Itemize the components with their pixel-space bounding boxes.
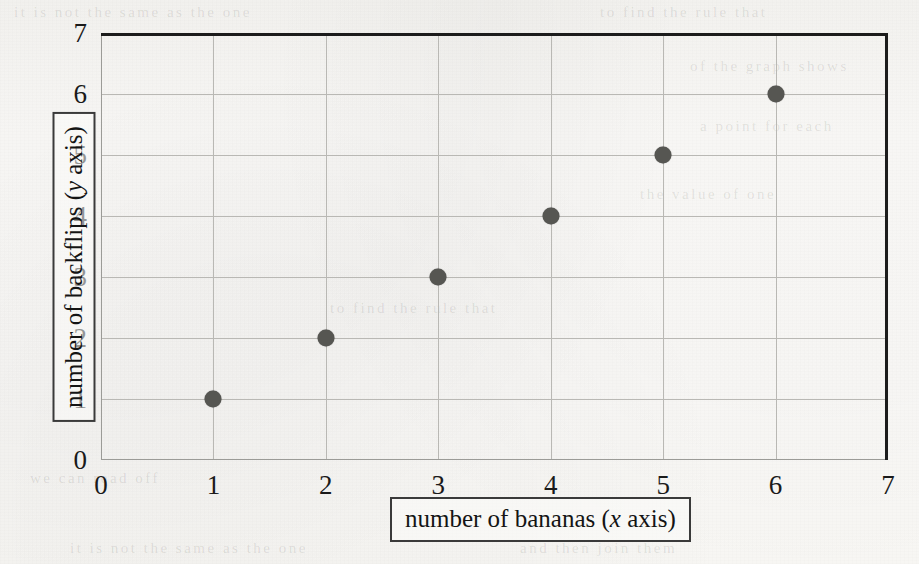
data-point bbox=[767, 86, 784, 103]
y-axis-title-variable: y bbox=[60, 181, 87, 192]
x-tick-label: 3 bbox=[432, 472, 446, 499]
y-axis-title-prefix: number of backflips ( bbox=[60, 192, 87, 408]
x-tick-label: 0 bbox=[94, 472, 108, 499]
y-axis-title: number of backflips (y axis) bbox=[53, 112, 96, 422]
x-axis-title-variable: x bbox=[610, 505, 621, 532]
y-axis-title-wrapper: number of backflips (y axis) bbox=[54, 112, 94, 422]
x-tick-label: 1 bbox=[207, 472, 221, 499]
ghost-text-line: it is not the same as the one bbox=[70, 541, 308, 557]
ghost-text-line: it is not the same as the one bbox=[14, 5, 252, 21]
plot-frame-right bbox=[885, 33, 888, 460]
plot-frame-left bbox=[101, 33, 102, 460]
scatter-plot bbox=[101, 33, 888, 460]
gridline-vertical bbox=[326, 33, 327, 460]
data-point bbox=[542, 208, 559, 225]
gridline-horizontal bbox=[101, 155, 888, 156]
gridline-horizontal bbox=[101, 277, 888, 278]
gridline-horizontal bbox=[101, 338, 888, 339]
y-tick-label: 6 bbox=[74, 81, 88, 108]
x-axis-title-suffix: axis) bbox=[621, 505, 676, 532]
x-tick-label: 4 bbox=[544, 472, 558, 499]
x-tick-label: 7 bbox=[881, 472, 895, 499]
data-point bbox=[317, 330, 334, 347]
y-axis-title-suffix: axis) bbox=[60, 126, 87, 181]
ghost-text-line: and then join them bbox=[520, 541, 677, 557]
ghost-text-line: to find the rule that bbox=[600, 5, 767, 21]
plot-frame-bottom bbox=[101, 459, 888, 460]
gridline-vertical bbox=[663, 33, 664, 460]
data-point bbox=[205, 391, 222, 408]
x-tick-label: 6 bbox=[769, 472, 783, 499]
x-tick-label: 5 bbox=[656, 472, 670, 499]
x-axis-title-prefix: number of bananas ( bbox=[405, 505, 610, 532]
y-tick-label: 0 bbox=[74, 447, 88, 474]
data-point bbox=[430, 269, 447, 286]
y-tick-label: 7 bbox=[74, 20, 88, 47]
gridline-vertical bbox=[438, 33, 439, 460]
x-axis-title: number of bananas (x axis) bbox=[390, 497, 691, 542]
x-tick-label: 2 bbox=[319, 472, 333, 499]
plot-frame-top bbox=[101, 33, 888, 36]
gridline-vertical bbox=[551, 33, 552, 460]
data-point bbox=[655, 147, 672, 164]
scanned-page: it is not the same as the oneto find the… bbox=[0, 0, 919, 564]
gridline-horizontal bbox=[101, 216, 888, 217]
